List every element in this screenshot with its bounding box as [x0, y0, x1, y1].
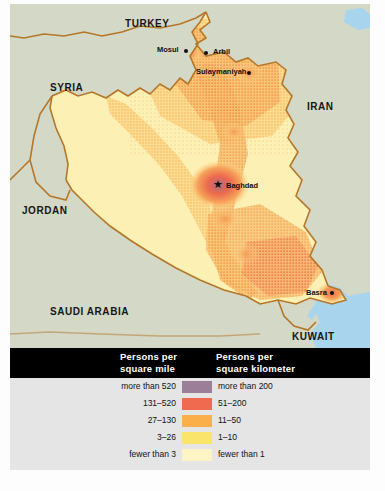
legend-color-swatch — [182, 449, 212, 461]
legend-row: 27–130 11–50 — [10, 412, 370, 429]
city-label-sulaymaniyah: Sulaymaniyah — [196, 67, 246, 76]
legend-value-per-km: more than 200 — [218, 378, 273, 395]
legend-row: 131–520 51–200 — [10, 395, 370, 412]
map-legend: Persons per square mile Persons per squa… — [10, 348, 370, 470]
legend-header-km-line2: square kilometer — [216, 363, 295, 375]
legend-value-per-mile: 27–130 — [10, 412, 176, 429]
country-label-turkey: TURKEY — [125, 18, 169, 29]
city-dot-sulaymaniyah — [247, 71, 251, 75]
legend-row: more than 520 more than 200 — [10, 378, 370, 395]
city-label-mosul: Mosul — [157, 45, 179, 54]
country-label-syria: SYRIA — [50, 82, 83, 93]
legend-row: 3–26 1–10 — [10, 429, 370, 446]
map-page: TURKEY SYRIA IRAN JORDAN SAUDI ARABIA KU… — [0, 0, 385, 491]
legend-header-mile-line2: square mile — [120, 363, 177, 375]
legend-header-per-square-mile: Persons per square mile — [120, 351, 177, 375]
urban-core-hillah — [209, 207, 241, 231]
legend-color-swatch — [182, 432, 212, 444]
city-label-arbil: Arbil — [213, 47, 230, 56]
city-label-basra: Basra — [306, 288, 327, 297]
legend-color-swatch — [182, 415, 212, 427]
city-dot-arbil — [204, 51, 208, 55]
legend-header-mile-line1: Persons per — [120, 351, 177, 363]
country-label-kuwait: KUWAIT — [292, 331, 335, 342]
legend-value-per-km: 51–200 — [218, 395, 246, 412]
legend-value-per-mile: more than 520 — [10, 378, 176, 395]
legend-value-per-km: 1–10 — [218, 429, 237, 446]
legend-row: fewer than 3 fewer than 1 — [10, 446, 370, 463]
city-dot-mosul — [184, 49, 188, 53]
urban-core-nasiriyah — [232, 243, 260, 265]
legend-value-per-mile: 131–520 — [10, 395, 176, 412]
legend-color-swatch — [182, 381, 212, 393]
legend-header-band: Persons per square mile Persons per squa… — [10, 348, 370, 378]
legend-value-per-km: fewer than 1 — [218, 446, 265, 463]
legend-value-per-km: 11–50 — [218, 412, 241, 429]
city-dot-basra — [330, 291, 334, 295]
capital-star-baghdad: ★ — [213, 180, 223, 188]
city-label-baghdad: Baghdad — [226, 181, 258, 190]
country-label-saudi-arabia: SAUDI ARABIA — [50, 306, 129, 317]
map-panel: TURKEY SYRIA IRAN JORDAN SAUDI ARABIA KU… — [10, 4, 370, 348]
legend-color-swatch — [182, 398, 212, 410]
legend-rows-container: more than 520 more than 200 131–520 51–2… — [10, 378, 370, 470]
legend-header-km-line1: Persons per — [216, 351, 295, 363]
country-label-iran: IRAN — [307, 101, 334, 112]
country-label-jordan: JORDAN — [22, 205, 68, 216]
legend-value-per-mile: fewer than 3 — [10, 446, 176, 463]
legend-value-per-mile: 3–26 — [10, 429, 176, 446]
urban-core-samarra — [222, 123, 246, 141]
legend-header-per-square-kilometer: Persons per square kilometer — [216, 351, 295, 375]
